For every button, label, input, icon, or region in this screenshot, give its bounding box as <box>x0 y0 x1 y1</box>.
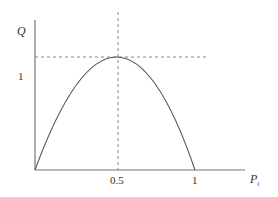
y-tick-1: 1 <box>18 71 24 82</box>
y-axis-label: Q <box>17 25 26 37</box>
x-axis-label: Pi <box>250 173 259 188</box>
parabola-curve <box>35 57 195 170</box>
chart-canvas <box>0 0 278 197</box>
x-tick-0-5: 0.5 <box>110 175 124 186</box>
x-tick-1: 1 <box>192 175 198 186</box>
x-axis-label-subscript: i <box>257 180 259 188</box>
